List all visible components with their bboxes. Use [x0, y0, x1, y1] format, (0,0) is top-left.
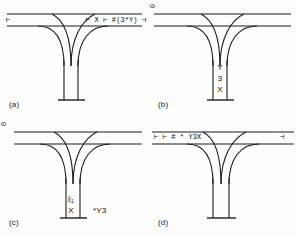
fillet-left-inner-d: [203, 132, 221, 184]
panel-caption-a: (a): [9, 100, 19, 109]
fillet-left-outer-b: [187, 26, 213, 66]
fillet-right-inner-d: [221, 132, 246, 184]
panel-a: ⊢ ⊢ X ⊢ #(3*Y) ⊣ (a): [0, 0, 149, 117]
panel-d: ⊢ ⊢ # * Y3X ⊣ (d): [149, 118, 298, 235]
panel-c: 0 ⊢ 5 # 0 ⊣ ℓ₁ X *Y3 (c): [0, 118, 149, 235]
fillet-left-outer-c: [40, 144, 66, 184]
stem-char-c-1: X: [68, 205, 74, 216]
rail-marker-right-b: 0 ⊣: [149, 0, 157, 8]
panel-b: 0 2 5 1 3 0 ⊣ Y 3 X (b): [149, 0, 298, 117]
stem-char-b-0: Y: [217, 62, 223, 73]
stem-text-c: ℓ₁ X: [63, 194, 79, 216]
fillet-right-outer-c: [80, 144, 110, 184]
panel-caption-d: (d): [158, 218, 168, 227]
fillet-right-inner-c: [73, 132, 97, 184]
panel-caption-b: (b): [158, 100, 168, 109]
stem-char-b-1: 3: [218, 73, 223, 84]
panel-caption-c: (c): [9, 218, 19, 227]
rail-annotation-d: ⊢ ⊢ # * Y3X: [154, 133, 201, 141]
fillet-right-outer-d: [229, 144, 259, 184]
fillet-left-inner-a: [52, 14, 71, 66]
fillet-right-outer-a: [78, 26, 108, 66]
fillet-left-inner-b: [201, 14, 220, 66]
rail-marker-right-d: ⊣: [280, 133, 284, 141]
side-annotation-c: *Y3: [93, 206, 107, 215]
fillet-left-outer-a: [38, 26, 64, 66]
fillet-right-inner-b: [220, 14, 244, 66]
fillet-left-inner-c: [54, 132, 73, 184]
rail-marker-left-a: ⊢: [6, 16, 10, 24]
fillet-right-outer-b: [227, 26, 257, 66]
rail-annotation-a: ⊢ X ⊢ #(3*Y) ⊣: [86, 16, 146, 24]
junction-drawing-c: [0, 118, 149, 235]
stem-text-b: Y 3 X: [212, 62, 228, 95]
stem-char-c-0: ℓ₁: [68, 194, 74, 205]
fillet-left-outer-d: [187, 144, 213, 184]
figure-root: ⊢ ⊢ X ⊢ #(3*Y) ⊣ (a) 0 2 5 1 3 0 ⊣ Y 3 X: [0, 0, 298, 235]
junction-drawing-b: [149, 0, 298, 117]
rail-marker-right-c: 0 ⊣: [0, 118, 8, 126]
stem-char-b-2: X: [217, 84, 223, 95]
